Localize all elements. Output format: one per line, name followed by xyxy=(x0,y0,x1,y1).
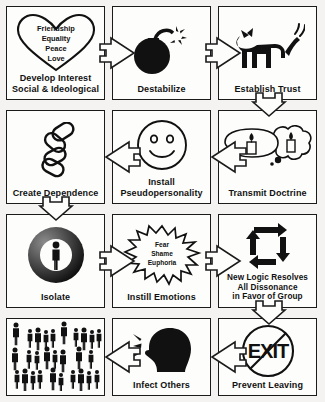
step-destabilize[interactable]: Destabilize xyxy=(112,6,211,100)
no-exit-icon: EXIT xyxy=(236,323,300,379)
heart-word-2: Peace xyxy=(45,44,66,53)
step-label: New Logic Resolves All Dissonance in Fav… xyxy=(219,273,316,307)
step-label: Prevent Leaving xyxy=(219,380,316,396)
starburst-word-2: Euphoria xyxy=(147,259,176,267)
starburst-icon-wrap: Fear Shame Euphoria xyxy=(113,215,210,292)
step-label: Instill Emotions xyxy=(113,292,210,308)
bomb-icon xyxy=(124,18,200,76)
person-in-ring-icon xyxy=(23,224,89,286)
step-install-pseudopersonality[interactable]: Install Pseudopersonality xyxy=(112,110,211,204)
person-in-ring-icon-wrap xyxy=(7,215,104,292)
step-create-dependence[interactable]: Create Dependence xyxy=(6,110,105,204)
heart-icon-wrap: Friendship Equality Peace Love xyxy=(7,7,104,73)
starburst-word-1: Shame xyxy=(151,250,173,257)
step-label: Install Pseudopersonality xyxy=(113,177,210,203)
loop-arrows-icon xyxy=(240,223,296,269)
crowd-of-people-icon xyxy=(9,319,103,391)
step-prevent-leaving[interactable]: EXIT Prevent Leaving xyxy=(218,318,317,396)
starburst-word-0: Fear xyxy=(155,241,169,248)
step-isolate[interactable]: Isolate xyxy=(6,214,105,308)
step-establish-trust[interactable]: Establish Trust xyxy=(218,6,317,100)
step-label: Create Dependence xyxy=(7,188,104,204)
loop-arrows-icon-wrap xyxy=(219,215,316,273)
step-label: Infect Others xyxy=(113,380,210,396)
smiley-face-icon xyxy=(133,118,191,174)
crowd-of-people-icon-wrap xyxy=(7,319,104,390)
step-instill-emotions[interactable]: Fear Shame Euphoria Instill Emotions xyxy=(112,214,211,308)
heart-word-3: Love xyxy=(47,54,64,63)
step-label xyxy=(7,390,104,395)
no-exit-icon-wrap: EXIT xyxy=(219,319,316,380)
speaking-head-icon-wrap xyxy=(113,319,210,380)
step-label: Develop Interest Social & Ideological xyxy=(7,73,104,99)
step-label: Isolate xyxy=(7,292,104,308)
chain-links-icon-wrap xyxy=(7,111,104,188)
step-label: Transmit Doctrine xyxy=(219,188,316,204)
smiley-face-icon-wrap xyxy=(113,111,210,177)
heart-word-0: Friendship xyxy=(37,24,75,33)
step-label: Destabilize xyxy=(113,84,210,100)
speech-thought-bubble-candles-icon-wrap xyxy=(219,111,316,188)
bomb-icon-wrap xyxy=(113,7,210,84)
step-transmit-doctrine[interactable]: Transmit Doctrine xyxy=(218,110,317,204)
speaking-head-icon xyxy=(127,326,197,376)
flowchart-diagram: Friendship Equality Peace Love Develop I… xyxy=(0,0,325,402)
dog-icon-wrap xyxy=(219,7,316,84)
speech-thought-bubble-candles-icon xyxy=(222,123,314,179)
heart-icon: Friendship Equality Peace Love xyxy=(12,11,100,73)
chain-links-icon xyxy=(30,122,82,180)
step-label: Establish Trust xyxy=(219,84,316,100)
starburst-icon: Fear Shame Euphoria xyxy=(121,224,203,286)
step-new-logic-resolves[interactable]: New Logic Resolves All Dissonance in Fav… xyxy=(218,214,317,308)
step-infect-others[interactable]: Infect Others xyxy=(112,318,211,396)
heart-word-1: Equality xyxy=(41,34,71,43)
step-crowd[interactable] xyxy=(6,318,105,396)
dog-icon xyxy=(231,18,305,76)
step-develop-interest[interactable]: Friendship Equality Peace Love Develop I… xyxy=(6,6,105,100)
